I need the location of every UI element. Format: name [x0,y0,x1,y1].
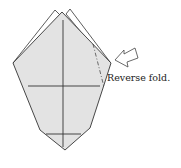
push-arrow-icon [115,48,138,67]
paper-body [13,12,111,150]
reverse-fold-label: Reverse fold. [107,72,170,83]
origami-diagram [0,0,181,168]
